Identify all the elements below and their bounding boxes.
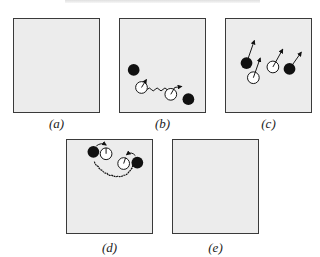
panel-c [225, 18, 312, 113]
black-particle-icon [284, 63, 296, 75]
black-particle-icon [183, 93, 195, 105]
black-particle-icon [131, 157, 143, 169]
panel-a [13, 18, 100, 113]
panel-a-label: (a) [13, 116, 100, 132]
panel-c-drawing [226, 19, 311, 112]
curved-arrow-icon [127, 153, 136, 156]
panel-c-label: (c) [225, 116, 312, 132]
panel-e-label: (e) [172, 240, 259, 256]
panel-e [172, 139, 259, 234]
black-particle-icon [128, 64, 140, 76]
panel-d [66, 139, 153, 234]
panel-b [119, 18, 206, 113]
arrow-icon [290, 52, 302, 69]
black-particle-icon [88, 146, 100, 158]
white-particle-icon [267, 61, 279, 73]
curved-arrow-icon [96, 144, 106, 146]
panel-d-label: (d) [66, 240, 153, 256]
cropped-header-text [65, 0, 260, 3]
panel-b-label: (b) [119, 116, 206, 132]
panel-b-drawing [120, 19, 205, 112]
white-particle-icon [247, 72, 259, 84]
panel-d-drawing [67, 140, 152, 233]
